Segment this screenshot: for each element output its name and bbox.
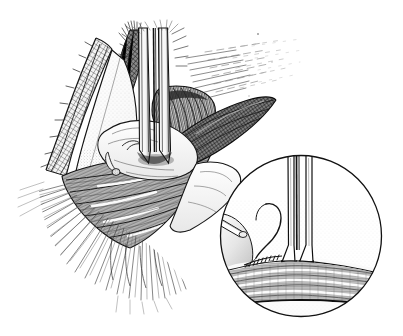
- paper-speck: [257, 33, 259, 35]
- surgical-illustration-figure: [0, 0, 403, 336]
- illustration-canvas: [0, 0, 403, 336]
